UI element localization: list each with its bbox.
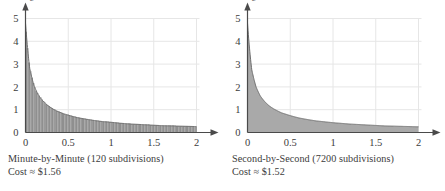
riemann-rectangle [168,126,169,133]
y-axis-arrow-icon [244,3,250,11]
y-axis-label: c [30,0,35,3]
riemann-rectangle [108,122,109,132]
y-tick-label: 3 [235,59,240,70]
riemann-rectangle [174,126,175,133]
riemann-rectangle [80,118,81,132]
x-tick-label: 0.5 [62,137,75,148]
y-tick-label: 0 [13,127,18,138]
riemann-rectangle [95,121,96,133]
y-tick-label: 3 [13,59,18,70]
riemann-rectangle [90,120,91,133]
riemann-rectangle [114,123,115,133]
riemann-rectangle [144,125,145,133]
riemann-rectangle [141,125,142,133]
riemann-rectangle [130,124,131,133]
riemann-rectangle [157,125,158,132]
riemann-rectangle [111,122,112,132]
riemann-rectangle [77,118,78,133]
riemann-rectangle [83,119,84,133]
riemann-rectangle [149,125,150,132]
caption-cost-minute-by-minute: Cost ≈ $1.56 [8,166,220,179]
riemann-rectangle [158,125,159,132]
riemann-rectangle [44,103,45,133]
riemann-rectangle [28,63,29,133]
riemann-rectangle [155,125,156,132]
riemann-rectangle [105,122,106,133]
riemann-rectangle [172,126,173,133]
y-tick-label: 5 [13,13,18,24]
riemann-rectangle [35,91,36,133]
riemann-rectangle [192,126,193,132]
riemann-rectangle [175,126,176,132]
riemann-rectangle [121,123,122,132]
y-tick-label: 4 [235,36,241,47]
riemann-rectangle [38,96,39,133]
riemann-rectangle [120,123,121,132]
riemann-rectangle [134,124,135,132]
riemann-rectangle [30,72,31,133]
x-tick-label: 1.5 [147,137,160,148]
figure-root: 00.511.52012345tc Minute-by-Minute (120 … [0,0,445,191]
riemann-rectangle [118,123,119,132]
riemann-rectangle [138,124,139,132]
riemann-rectangle [101,121,102,132]
y-tick-label: 2 [13,82,18,93]
riemann-rectangle [64,114,65,132]
chart-plot-minute-by-minute: 00.511.52012345tc [0,0,222,150]
riemann-rectangle [47,105,48,132]
caption-cost-second-by-second: Cost ≈ $1.52 [232,166,444,179]
x-tick-label: 1.5 [369,137,382,148]
riemann-rectangle [165,126,166,133]
y-tick-label: 5 [235,13,240,24]
riemann-rectangle [152,125,153,132]
riemann-rectangle [58,112,59,133]
riemann-rectangle [177,126,178,132]
riemann-rectangle [84,119,85,133]
riemann-rectangle [94,121,95,133]
riemann-rectangle [125,124,126,133]
riemann-rectangle [51,108,52,132]
riemann-rectangle [61,113,62,132]
x-tick-label: 0 [245,137,250,148]
y-axis-arrow-icon [22,3,28,11]
riemann-rectangle [27,49,28,133]
riemann-rectangle [191,126,192,132]
riemann-rectangle [31,78,32,133]
riemann-rectangle [74,117,75,133]
x-tick-label: 2 [416,137,421,148]
riemann-rectangle [92,120,93,132]
riemann-rectangle [67,115,68,133]
riemann-rectangle [124,124,125,133]
riemann-rectangle [194,127,195,133]
riemann-rectangle [91,120,92,132]
riemann-rectangle [115,123,116,133]
riemann-rectangle [71,116,72,132]
riemann-rectangle [78,118,79,133]
riemann-rectangle [33,83,34,132]
riemann-rectangle [54,110,55,133]
riemann-rectangle [55,111,56,133]
y-tick-label: 2 [235,82,240,93]
riemann-rectangle [104,122,105,133]
riemann-rectangle [161,126,162,133]
riemann-rectangle [122,123,123,132]
riemann-rectangle [148,125,149,133]
y-tick-label: 4 [13,36,19,47]
riemann-rectangle [178,126,179,132]
riemann-rectangle [57,111,58,132]
riemann-rectangle [68,115,69,132]
riemann-rectangle [145,125,146,133]
riemann-rectangle [34,87,35,132]
riemann-rectangle [75,117,76,132]
riemann-rectangle [188,126,189,132]
riemann-rectangle [195,127,196,133]
riemann-rectangle [112,122,113,132]
riemann-rectangle [85,119,86,132]
riemann-rectangle [162,126,163,133]
riemann-rectangle [137,124,138,132]
y-tick-label: 1 [235,104,240,115]
riemann-rectangle [147,125,148,133]
riemann-rectangle [142,125,143,133]
chart-plot-second-by-second: 00.511.52012345tc [222,0,444,150]
riemann-rectangle [179,126,180,132]
